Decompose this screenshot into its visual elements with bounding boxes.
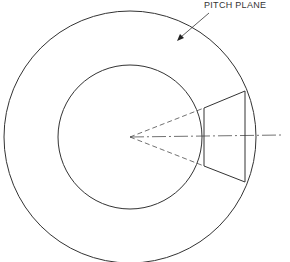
cone-upper-dashed-line [130,108,204,137]
center-axis-line [130,135,282,137]
leader-line [181,13,209,37]
cone-lower-dashed-line [130,137,204,166]
pitch-plane-diagram [0,0,290,262]
frustum-bottom-edge [204,166,245,182]
frustum-top-edge [204,91,245,108]
outer-circle [4,11,256,262]
